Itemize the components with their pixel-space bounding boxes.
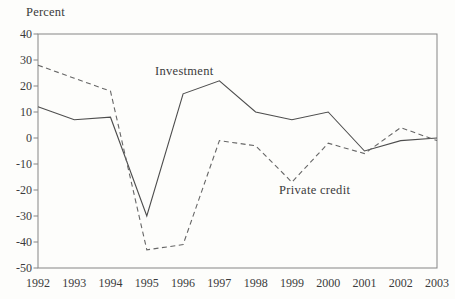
y-axis-title: Percent [26,5,65,20]
x-tick-label: 2000 [316,276,340,290]
series-line-investment [38,81,437,216]
x-tick-label: 1998 [244,276,268,290]
y-tick-label: -30 [16,209,32,223]
x-tick-label: 1995 [135,276,159,290]
series-label-investment: Investment [155,64,214,79]
line-chart-figure: 403020100-10-20-30-40-501992199319941995… [0,0,455,299]
x-tick-label: 2002 [389,276,413,290]
x-tick-label: 1999 [280,276,304,290]
y-tick-label: 30 [20,53,32,67]
x-tick-label: 1994 [99,276,123,290]
x-tick-label: 2003 [425,276,449,290]
y-tick-label: 10 [20,105,32,119]
x-tick-label: 1993 [62,276,86,290]
y-tick-label: -10 [16,157,32,171]
y-tick-label: -20 [16,183,32,197]
y-tick-label: 40 [20,27,32,41]
x-tick-label: 2001 [352,276,376,290]
y-tick-label: 0 [26,131,32,145]
y-tick-label: 20 [20,79,32,93]
plot-border [38,34,437,268]
x-tick-label: 1992 [26,276,50,290]
series-line-private-credit [38,65,437,250]
x-tick-label: 1996 [171,276,195,290]
series-label-private-credit: Private credit [279,183,350,198]
chart-canvas: 403020100-10-20-30-40-501992199319941995… [0,0,455,299]
y-tick-label: -50 [16,261,32,275]
y-tick-label: -40 [16,235,32,249]
x-tick-label: 1997 [207,276,231,290]
